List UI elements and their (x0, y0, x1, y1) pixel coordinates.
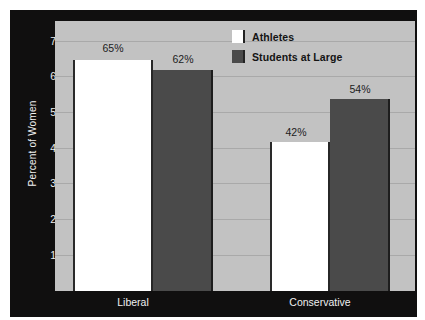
plot-area: 65% 62% 42% 54% Athletes Students at Lar… (55, 21, 415, 291)
legend-swatch-students-icon (232, 50, 245, 63)
legend-swatch-athletes-icon (232, 30, 245, 43)
bar-label-liberal-athletes: 65% (73, 42, 153, 54)
bar-conservative-students[interactable] (330, 99, 390, 291)
x-tick-label-liberal: Liberal (117, 296, 149, 308)
bar-conservative-athletes[interactable] (270, 142, 330, 291)
bar-chart-figure: Percent of Women 70 60 50 40 30 20 10 0 (0, 0, 425, 320)
bar-label-conservative-athletes: 42% (266, 126, 326, 138)
legend-item-students-at-large[interactable]: Students at Large (232, 48, 342, 65)
bar-label-conservative-students: 54% (330, 83, 390, 95)
bar-liberal-athletes[interactable] (73, 60, 153, 291)
bar-liberal-students[interactable] (153, 70, 213, 291)
legend-item-athletes[interactable]: Athletes (232, 28, 342, 45)
legend-label-athletes: Athletes (252, 31, 294, 43)
bar-label-liberal-students: 62% (153, 53, 213, 65)
legend-label-students-at-large: Students at Large (252, 51, 342, 63)
legend: Athletes Students at Large (232, 28, 342, 68)
x-tick-label-conservative: Conservative (289, 296, 350, 308)
x-axis-band: Liberal Conservative (10, 291, 417, 317)
chart-panel: Percent of Women 70 60 50 40 30 20 10 0 (10, 10, 417, 307)
